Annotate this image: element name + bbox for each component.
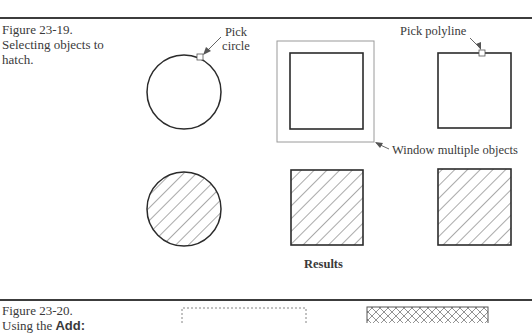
section-rule [0, 299, 532, 301]
window-multiple-objects-label: Window multiple objects [392, 143, 518, 157]
results-label: Results [304, 257, 343, 271]
crosshatched-area [367, 307, 488, 323]
pick-circle-label-line1: Pick [216, 25, 256, 39]
pick-circle-object [147, 37, 221, 129]
window-selection-object [277, 41, 389, 149]
caption-prefix: Using the [2, 318, 55, 333]
pick-circle-label: Pick circle [216, 25, 256, 53]
arrow-head-icon [476, 42, 481, 50]
pick-circle-label-line2: circle [216, 39, 256, 53]
caption-bold-command: Add: [55, 318, 85, 333]
selection-window [277, 41, 374, 142]
hatched-circle-result [147, 172, 221, 246]
pick-polyline-label: Pick polyline [400, 24, 466, 38]
figure-23-20-caption: Figure 23-20. Using the Add: [2, 303, 85, 333]
figure-23-20-number: Figure 23-20. [2, 303, 85, 318]
dotted-boundary [182, 308, 306, 323]
figure-23-20-partial-art [182, 307, 488, 323]
figure-23-20-caption-line1: Using the Add: [2, 318, 85, 333]
pick-polyline-object [438, 38, 511, 128]
hatched-square-result [291, 170, 363, 245]
arrow-head-icon [375, 142, 383, 148]
pick-box-icon [197, 54, 203, 60]
hatched-polyline-result [438, 169, 511, 245]
pick-box-icon [479, 50, 485, 56]
